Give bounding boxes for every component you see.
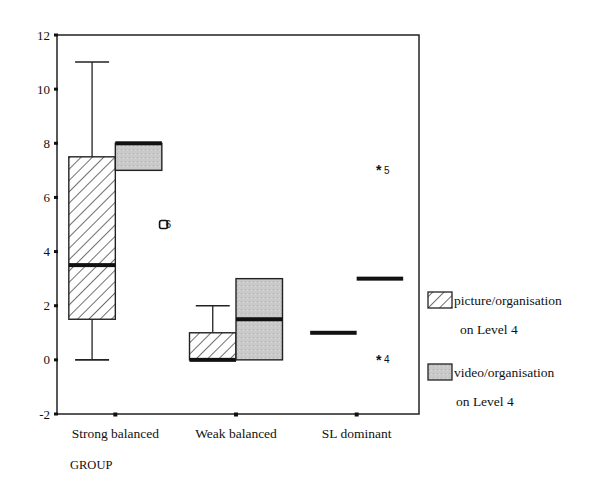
y-tick-label: 2 bbox=[44, 298, 51, 313]
median-line bbox=[357, 277, 404, 281]
box-video-organisation-strong-balanced: 6 bbox=[115, 141, 171, 230]
legend-swatch bbox=[428, 292, 452, 308]
median-line bbox=[69, 263, 116, 267]
y-tick-label: 10 bbox=[37, 82, 50, 97]
median-line bbox=[115, 141, 162, 145]
extreme-marker: * bbox=[376, 352, 382, 368]
box-iqr bbox=[190, 333, 237, 360]
median-line bbox=[190, 358, 237, 362]
box-picture-organisation-sl-dominant bbox=[310, 331, 357, 335]
y-tick bbox=[54, 88, 58, 91]
y-tick bbox=[54, 34, 58, 37]
category-label: Weak balanced bbox=[195, 426, 277, 441]
y-tick-label: 6 bbox=[44, 190, 51, 205]
box-video-organisation-sl-dominant: *5*4 bbox=[357, 162, 404, 368]
x-tick bbox=[113, 413, 117, 417]
y-axis: -2024681012 bbox=[37, 28, 58, 422]
x-tick bbox=[234, 413, 238, 417]
extreme-marker: * bbox=[376, 162, 382, 178]
legend-label-line2: on Level 4 bbox=[460, 322, 518, 337]
boxplot-chart: -2024681012 Strong balancedWeak balanced… bbox=[0, 0, 608, 499]
y-tick bbox=[54, 142, 58, 145]
y-tick-label: -2 bbox=[39, 407, 50, 422]
x-tick bbox=[355, 413, 359, 417]
median-line bbox=[310, 331, 357, 335]
box-iqr bbox=[69, 157, 116, 319]
category-label: Strong balanced bbox=[72, 426, 160, 441]
box-video-organisation-weak-balanced bbox=[236, 279, 283, 360]
y-tick bbox=[54, 304, 58, 307]
outlier-label: 6 bbox=[166, 219, 172, 230]
y-tick bbox=[54, 358, 58, 361]
legend-label-line1: picture/organisation bbox=[454, 293, 562, 308]
box-picture-organisation-weak-balanced bbox=[190, 306, 237, 362]
y-tick-label: 8 bbox=[44, 136, 51, 151]
legend-swatch bbox=[428, 364, 452, 380]
y-tick-label: 12 bbox=[37, 28, 50, 43]
extreme-label: 5 bbox=[384, 165, 390, 176]
y-tick-label: 0 bbox=[44, 352, 51, 367]
x-axis-title: GROUP bbox=[70, 458, 112, 473]
legend-label-line2: on Level 4 bbox=[456, 394, 514, 409]
legend: picture/organisationon Level 4video/orga… bbox=[428, 292, 562, 409]
extreme-label: 4 bbox=[384, 354, 390, 365]
x-axis: Strong balancedWeak balancedSL dominant bbox=[72, 413, 392, 442]
y-tick-label: 4 bbox=[44, 244, 51, 259]
box-iqr bbox=[115, 143, 162, 170]
category-label: SL dominant bbox=[322, 426, 392, 441]
legend-item-picture: picture/organisationon Level 4 bbox=[428, 292, 562, 337]
box-picture-organisation-strong-balanced bbox=[69, 62, 116, 360]
legend-label-line1: video/organisation bbox=[454, 365, 554, 380]
legend-item-video: video/organisationon Level 4 bbox=[428, 364, 554, 409]
y-tick bbox=[54, 250, 58, 253]
median-line bbox=[236, 317, 283, 321]
y-tick bbox=[54, 196, 58, 199]
y-tick bbox=[54, 413, 58, 416]
series-layer: 6*5*4 bbox=[69, 62, 403, 368]
